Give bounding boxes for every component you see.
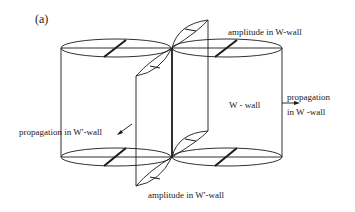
label-propagation-w-line2: in W -wall xyxy=(287,107,325,117)
label-w-wall: W - wall xyxy=(229,100,260,110)
panel-label: (a) xyxy=(35,13,48,26)
label-propagation-wprime: propagation in W'-wall xyxy=(19,127,102,137)
left-cylinder xyxy=(61,39,171,166)
label-amplitude-wprime-wall: amplitude in W'-wall xyxy=(148,190,224,200)
label-amplitude-w-wall: amplitude in W-wall xyxy=(228,27,302,37)
label-propagation-w-line1: propagation xyxy=(287,92,330,102)
propagation-arrow-wprime xyxy=(117,124,132,135)
amplitude-arrows-w xyxy=(104,40,237,166)
